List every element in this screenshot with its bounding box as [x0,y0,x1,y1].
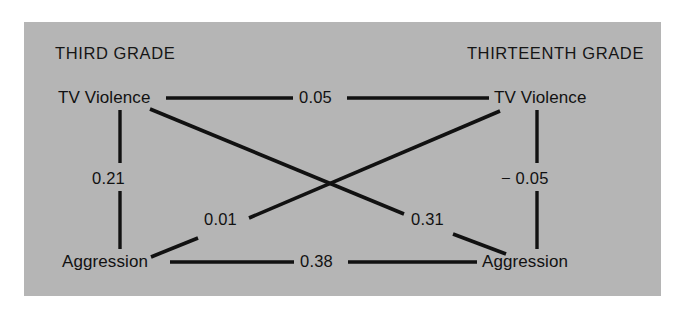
edge-line-cross-lagged-tv-to-aggression-lower [453,234,506,254]
coefficient-synchronous-thirteenth-grade: − 0.05 [501,169,549,188]
edge-line-cross-lagged-tv-to-aggression-upper [150,109,404,214]
coefficient-stability-tv-violence: 0.05 [299,88,332,107]
edge-line-cross-lagged-aggression-to-tv-lower [151,238,198,257]
coefficient-cross-lagged-aggression-to-tv: 0.01 [204,210,237,229]
coefficient-synchronous-third-grade: 0.21 [92,169,125,188]
node-tv-violence-thirteenth-grade: TV Violence [494,88,586,108]
figure-root: THIRD GRADE THIRTEENTH GRADE TV Violence… [0,0,684,314]
node-aggression-thirteenth-grade: Aggression [482,252,568,272]
coefficient-stability-aggression: 0.38 [300,252,333,271]
node-aggression-third-grade: Aggression [62,252,148,272]
node-tv-violence-third-grade: TV Violence [58,88,150,108]
column-header-third-grade: THIRD GRADE [55,44,175,63]
coefficient-cross-lagged-tv-to-aggression: 0.31 [411,210,444,229]
column-header-thirteenth-grade: THIRTEENTH GRADE [467,44,644,63]
